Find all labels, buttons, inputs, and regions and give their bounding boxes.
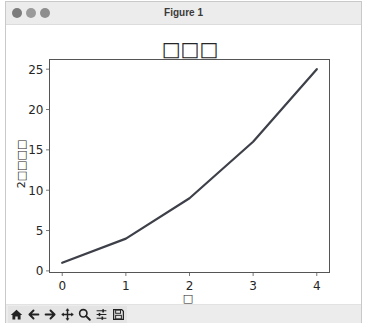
y-axis-label: 2□□□□ xyxy=(15,140,28,189)
floppy-disk-icon xyxy=(112,308,125,321)
x-axis: 01234 xyxy=(58,273,320,293)
magnifier-icon xyxy=(78,308,91,321)
x-tick-label: 3 xyxy=(249,279,257,293)
title-bar[interactable]: Figure 1 xyxy=(6,2,361,25)
x-tick-label: 2 xyxy=(186,279,194,293)
window-title: Figure 1 xyxy=(6,7,361,18)
y-axis: 0510152025 xyxy=(28,63,49,279)
figure-window: Figure 1 □□□ 0510152025 01234 □ 2□□□□ xyxy=(5,1,362,323)
x-tick-label: 1 xyxy=(122,279,130,293)
figure-canvas[interactable]: □□□ 0510152025 01234 □ 2□□□□ xyxy=(6,24,361,304)
arrow-left-icon xyxy=(27,308,40,321)
back-button[interactable] xyxy=(25,306,42,323)
pan-button[interactable] xyxy=(59,306,76,323)
home-button[interactable] xyxy=(8,306,25,323)
x-axis-label: □ xyxy=(183,292,193,304)
navigation-toolbar xyxy=(6,304,361,323)
line-chart: □□□ 0510152025 01234 □ 2□□□□ xyxy=(6,24,361,304)
forward-button[interactable] xyxy=(42,306,59,323)
y-tick-label: 0 xyxy=(36,264,44,278)
x-tick-label: 0 xyxy=(58,279,66,293)
zoom-to-rect-button[interactable] xyxy=(76,306,93,323)
y-tick-label: 5 xyxy=(36,224,44,238)
y-tick-label: 15 xyxy=(28,143,43,157)
chart-title: □□□ xyxy=(162,37,219,61)
sliders-icon xyxy=(95,308,108,321)
y-tick-label: 10 xyxy=(28,184,43,198)
axes-frame xyxy=(50,60,330,273)
configure-subplots-button[interactable] xyxy=(93,306,110,323)
y-tick-label: 25 xyxy=(28,63,43,77)
x-tick-label: 4 xyxy=(313,279,321,293)
y-tick-label: 20 xyxy=(28,103,43,117)
save-button[interactable] xyxy=(110,306,127,323)
move-icon xyxy=(61,308,74,321)
arrow-right-icon xyxy=(44,308,57,321)
home-icon xyxy=(10,308,23,321)
